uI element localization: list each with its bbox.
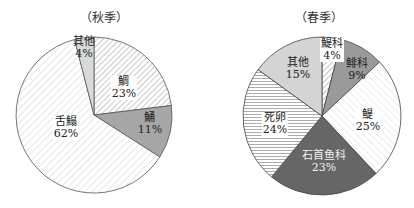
- spring-pie-chart: （春季） 鯷科4%: [207, 0, 414, 208]
- label-other: 其他15%: [285, 57, 311, 81]
- label-anchovy: 鳀25%: [355, 109, 381, 133]
- spring-pie-svg: [207, 0, 414, 208]
- autumn-pie-svg: [0, 0, 207, 208]
- label-engraulidae: 鯷科4%: [320, 38, 344, 62]
- label-flathead: 鯒11%: [137, 112, 163, 136]
- label-sea-bream: 鯛23%: [111, 76, 137, 100]
- label-sciaenidae: 石首鱼科23%: [301, 150, 347, 174]
- label-tonguefish: 舌鰨62%: [53, 116, 79, 140]
- label-dead-eggs: 死卵24%: [262, 112, 288, 136]
- label-other: 其他4%: [72, 36, 96, 60]
- autumn-pie-chart: （秋季） 其他4% 鯛23% 鯒11% 舌鰨62%: [0, 0, 207, 208]
- label-clupeidae: 鲱科9%: [345, 58, 369, 82]
